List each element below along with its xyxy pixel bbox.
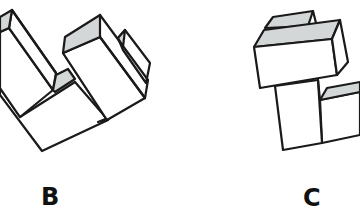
figure-c-back-slab-edge: [313, 11, 316, 23]
figure-c-drawing: [254, 11, 360, 150]
diagram-canvas: B C: [0, 0, 360, 209]
figure-c-box-front: [254, 39, 337, 88]
figure-c-pillar: [275, 80, 322, 150]
figure-drawings: [0, 0, 360, 209]
figure-label-b: B: [41, 185, 59, 209]
figure-label-c: C: [303, 186, 321, 209]
figure-b-drawing: [0, 10, 150, 151]
